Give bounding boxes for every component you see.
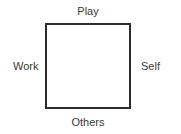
label-bottom-others: Others [0, 116, 176, 129]
diagram-canvas: Play Work Self Others [0, 0, 181, 134]
square-shape [45, 23, 131, 109]
label-top-play: Play [0, 5, 176, 18]
label-left-work: Work [13, 60, 38, 73]
label-right-self: Self [141, 60, 160, 73]
